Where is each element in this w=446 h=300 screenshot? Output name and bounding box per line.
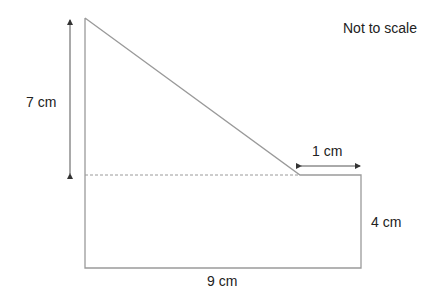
composite-shape-diagram xyxy=(0,0,446,300)
rect-height-label: 4 cm xyxy=(371,214,401,230)
base-width-label: 9 cm xyxy=(207,273,237,289)
top-right-width-label: 1 cm xyxy=(312,143,342,159)
height-total-label: 7 cm xyxy=(26,94,56,110)
not-to-scale-note: Not to scale xyxy=(343,20,417,36)
